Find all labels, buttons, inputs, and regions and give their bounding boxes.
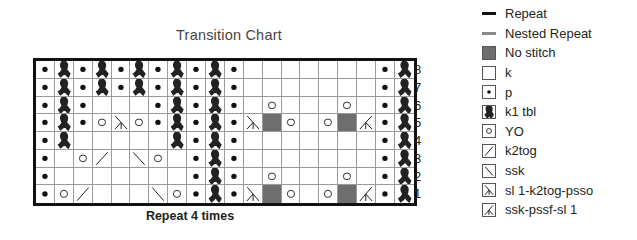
chart-cell-p [187, 97, 206, 115]
k1-tbl-icon [395, 132, 414, 149]
purl-dot-icon [376, 185, 394, 203]
legend-item-nested: Nested Repeat [482, 24, 593, 44]
k1-tbl-icon [206, 97, 224, 114]
purl-dot-icon [36, 168, 54, 185]
purl-dot-icon [149, 79, 167, 96]
chart-cell-k [319, 97, 338, 115]
chart-cell-tbl [206, 168, 225, 186]
k2tog-icon [74, 185, 92, 203]
row-number: 5 [414, 114, 421, 132]
chart-cell-p [36, 97, 55, 115]
k1-tbl-icon [395, 185, 414, 203]
purl-dot-icon [36, 61, 54, 78]
ssk-pssf-sl1-icon [357, 114, 375, 131]
chart-cell-p [36, 132, 55, 150]
purl-dot-icon [187, 185, 205, 203]
row-number: 1 [414, 185, 421, 203]
chart-cell-p [376, 114, 395, 132]
chart-cell-k [319, 150, 338, 168]
chart-cell-tbl [168, 97, 187, 115]
chart-cell-k [130, 168, 149, 186]
chart-cell-p [187, 132, 206, 150]
chart-cell-p [225, 168, 244, 186]
legend-label: ssk [505, 163, 525, 178]
chart-cell-p [187, 185, 206, 203]
row-number: 6 [414, 97, 421, 115]
k1-tbl-icon [206, 114, 224, 131]
legend-label: YO [505, 124, 524, 139]
chart-cell-ns [338, 185, 357, 203]
k1-tbl-icon [483, 106, 495, 118]
chart-cell-p [376, 79, 395, 97]
chart-cell-yo [319, 185, 338, 203]
k2tog-icon [93, 150, 111, 167]
chart-cell-k [263, 61, 282, 79]
chart-cell-k [282, 150, 301, 168]
chart-cell-k [300, 114, 319, 132]
chart-cell-k [93, 97, 112, 115]
chart-cell-ns [263, 185, 282, 203]
k1-tbl-icon [482, 105, 496, 119]
yarn-over-icon [482, 124, 496, 138]
chart-cell-k [319, 79, 338, 97]
chart-cell-tbl [168, 114, 187, 132]
chart-cell-k [357, 150, 376, 168]
purl-dot-icon [149, 114, 167, 131]
chart-cell-k [357, 79, 376, 97]
chart-cell-p [187, 114, 206, 132]
chart-cell-sssp [357, 114, 376, 132]
purl-dot-icon [187, 168, 205, 185]
purl-dot-icon [376, 168, 394, 185]
legend: RepeatNested RepeatNo stitchkpk1 tblYOk2… [482, 4, 593, 220]
chart-grid [36, 61, 414, 203]
chart-cell-k [357, 97, 376, 115]
knit-blank-icon [482, 66, 496, 80]
chart-cell-tbl [168, 79, 187, 97]
purl-dot-icon [376, 79, 394, 96]
sl1-k2tog-psso-icon [112, 114, 130, 131]
chart-cell-yo [168, 185, 187, 203]
chart-cell-k [112, 132, 131, 150]
chart-cell-k [55, 168, 74, 186]
legend-label: p [505, 85, 512, 100]
k1-tbl-icon [395, 114, 414, 131]
k1-tbl-icon [206, 79, 224, 96]
purl-dot-icon [483, 86, 495, 98]
legend-item-sssp: ssk-pssf-sl 1 [482, 200, 593, 220]
legend-item-k: k [482, 63, 593, 83]
chart-cell-k [263, 150, 282, 168]
chart-cell-p [187, 61, 206, 79]
chart-cell-ns [263, 114, 282, 132]
yarn-over-icon [483, 125, 495, 137]
sl1-k2tog-psso-icon [244, 114, 262, 131]
purl-dot-icon [187, 132, 205, 149]
ssk-pssf-sl1-icon [482, 203, 496, 217]
chart-cell-yo [74, 150, 93, 168]
legend-item-s2p: sl 1-k2tog-psso [482, 180, 593, 200]
chart-cell-k [130, 132, 149, 150]
chart-cell-p [149, 61, 168, 79]
k1-tbl-icon [130, 61, 148, 78]
k1-tbl-icon [168, 79, 186, 96]
purl-dot-icon [376, 132, 394, 149]
yarn-over-icon [282, 185, 300, 203]
chart-cell-p [376, 185, 395, 203]
chart-cell-k [74, 132, 93, 150]
legend-label: No stitch [505, 45, 556, 60]
chart-cell-p [376, 97, 395, 115]
legend-item-tbl: k1 tbl [482, 102, 593, 122]
purl-dot-icon [225, 150, 243, 167]
chart-cell-tbl [395, 132, 414, 150]
chart-cell-k [130, 185, 149, 203]
chart-cell-k [357, 168, 376, 186]
chart-cell-p [149, 79, 168, 97]
chart-cell-ns [338, 114, 357, 132]
chart-cell-k [282, 61, 301, 79]
chart-cell-p [36, 168, 55, 186]
chart-cell-tbl [168, 61, 187, 79]
chart-cell-p [36, 185, 55, 203]
chart-cell-k [300, 97, 319, 115]
chart-cell-tbl [395, 79, 414, 97]
chart-cell-p [149, 97, 168, 115]
purl-dot-icon [376, 61, 394, 78]
